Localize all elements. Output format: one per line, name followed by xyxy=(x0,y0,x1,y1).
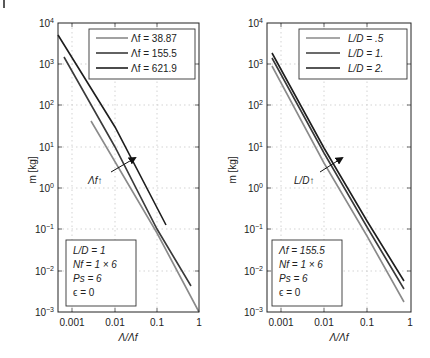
left-chart: 104 103 102 101 100 10−1 10−2 10−3 0.001… xyxy=(27,17,202,343)
svg-text:10−3: 10−3 xyxy=(244,306,263,318)
right-legend: L/D = .5 L/D = 1. L/D = 2. xyxy=(299,29,407,79)
svg-text:Ps = 6: Ps = 6 xyxy=(73,273,102,284)
svg-text:Ps = 6: Ps = 6 xyxy=(279,273,308,284)
svg-text:10−3: 10−3 xyxy=(35,306,54,318)
svg-text:Λf = 621.9: Λf = 621.9 xyxy=(131,63,177,74)
svg-text:10−2: 10−2 xyxy=(35,265,54,277)
svg-text:100: 100 xyxy=(248,182,263,194)
svg-text:0.01: 0.01 xyxy=(105,317,125,328)
right-arrow-label: L/D↑ xyxy=(294,175,315,186)
svg-text:ϵ = 0: ϵ = 0 xyxy=(73,287,95,298)
svg-text:Nf = 1 × 6: Nf = 1 × 6 xyxy=(279,259,323,270)
svg-text:L/D = 2.: L/D = 2. xyxy=(348,63,383,74)
svg-text:10−1: 10−1 xyxy=(244,223,263,235)
svg-text:104: 104 xyxy=(39,17,54,29)
svg-text:101: 101 xyxy=(248,141,263,153)
svg-text:0.1: 0.1 xyxy=(360,317,374,328)
svg-text:102: 102 xyxy=(39,99,54,111)
left-arrow-label: Λf↑ xyxy=(87,175,102,186)
svg-text:0.1: 0.1 xyxy=(150,317,164,328)
svg-text:0.01: 0.01 xyxy=(314,317,334,328)
right-x-ticks: 0.001 0.01 0.1 1 xyxy=(268,317,413,328)
svg-text:10−1: 10−1 xyxy=(35,223,54,235)
svg-text:101: 101 xyxy=(39,141,54,153)
svg-text:Nf = 1 × 6: Nf = 1 × 6 xyxy=(73,259,117,270)
figure: 104 103 102 101 100 10−1 10−2 10−3 0.001… xyxy=(0,0,430,358)
svg-text:ϵ = 0: ϵ = 0 xyxy=(279,287,301,298)
right-param-box: Λf = 155.5 Nf = 1 × 6 Ps = 6 ϵ = 0 xyxy=(272,240,342,306)
svg-text:102: 102 xyxy=(248,99,263,111)
svg-text:Λf = 155.5: Λf = 155.5 xyxy=(278,245,325,256)
left-x-label: Λ/Λf xyxy=(118,332,139,343)
svg-text:L/D = .5: L/D = .5 xyxy=(348,33,384,44)
svg-text:104: 104 xyxy=(248,17,263,29)
svg-text:0.001: 0.001 xyxy=(268,317,293,328)
svg-text:10−2: 10−2 xyxy=(244,265,263,277)
left-param-box: L/D = 1 Nf = 1 × 6 Ps = 6 ϵ = 0 xyxy=(66,240,136,306)
svg-text:0.001: 0.001 xyxy=(59,317,84,328)
svg-text:103: 103 xyxy=(39,58,54,70)
svg-text:100: 100 xyxy=(39,182,54,194)
svg-text:L/D = 1: L/D = 1 xyxy=(73,245,106,256)
left-y-label: m [kg] xyxy=(27,156,38,183)
left-legend: Λf = 38.87 Λf = 155.5 Λf = 621.9 xyxy=(89,29,195,79)
svg-text:Λf = 155.5: Λf = 155.5 xyxy=(131,48,177,59)
left-x-ticks: 0.001 0.01 0.1 1 xyxy=(59,317,202,328)
svg-text:Λf = 38.87: Λf = 38.87 xyxy=(131,33,177,44)
right-y-label: m [kg] xyxy=(227,156,238,183)
right-y-ticks: 104 103 102 101 100 10−1 10−2 10−3 xyxy=(244,17,263,318)
right-chart: 104 103 102 101 100 10−1 10−2 10−3 0.001… xyxy=(227,17,413,343)
right-x-label: Λ/Λf xyxy=(329,332,350,343)
svg-text:1: 1 xyxy=(407,317,413,328)
svg-text:103: 103 xyxy=(248,58,263,70)
svg-text:1: 1 xyxy=(196,317,202,328)
svg-text:L/D = 1.: L/D = 1. xyxy=(348,48,383,59)
